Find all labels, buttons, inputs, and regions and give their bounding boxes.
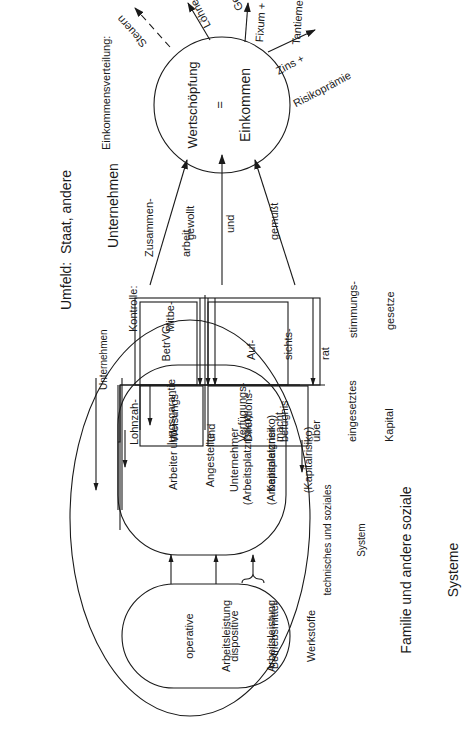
distribution-title: Einkommensverteilung: <box>100 36 112 150</box>
input-resources: Betriebsmittel Werkstoffe <box>243 586 342 686</box>
input-resources-line1: Betriebsmittel <box>268 586 280 686</box>
disposal-line3: über <box>310 380 322 442</box>
disposal-line2: macht <box>273 380 285 442</box>
input-operative-line1: operative <box>183 586 195 686</box>
cooperation-label: Zusammen- arbeit <box>118 198 217 257</box>
board-text: Auf- sichts- rat <box>220 328 355 360</box>
disposal-text: Verfügungs- macht über eingesetztes Kapi… <box>211 380 420 442</box>
cooperation-line1: Zusammen- <box>143 198 155 257</box>
wage-guarantee-line1: Lohnzah- <box>128 379 140 445</box>
control-label-line1: Kontrolle: <box>127 286 139 332</box>
input-dispositive-line1: dispositive <box>228 586 240 686</box>
value-creation-equals: = <box>213 52 228 158</box>
output-wages-line1: Löhne + <box>182 0 213 30</box>
family-label-line2: Systeme <box>446 430 462 710</box>
environment-title-line1: Umfeld: Staat, andere <box>59 163 75 310</box>
family-label-line1: Familie und andere soziale <box>399 430 415 710</box>
input-resources-line2: Werkstoffe <box>305 586 317 686</box>
forced-label: gemußt <box>268 203 280 240</box>
output-fixum-line1: Fixum + <box>253 0 268 43</box>
directive-line1: Weisungs- <box>168 389 180 442</box>
value-creation-bottom: Einkommen <box>238 52 254 158</box>
betrvg-label: BetrVG <box>160 312 172 375</box>
control-label: Kontrolle: Mitbe- <box>102 286 201 332</box>
disposal-line1: Verfügungs- <box>236 380 248 442</box>
board-line2: sichts- <box>282 328 294 360</box>
board-line1: Auf- <box>245 328 257 360</box>
output-interest-line1: Zins + <box>274 36 336 77</box>
output-interest-line2: Risikoprämie <box>291 69 353 110</box>
disposal-line4: eingesetztes <box>346 380 358 442</box>
control-label-line4: gesetze <box>384 281 396 338</box>
and-label: und <box>224 215 236 233</box>
wanted-label: gewollt <box>184 206 196 240</box>
board-line3: rat <box>319 328 331 360</box>
disposal-line5: Kapital <box>383 380 395 442</box>
system-label-line2: System <box>356 470 367 610</box>
value-creation-top: Wertschöpfung <box>186 52 201 158</box>
